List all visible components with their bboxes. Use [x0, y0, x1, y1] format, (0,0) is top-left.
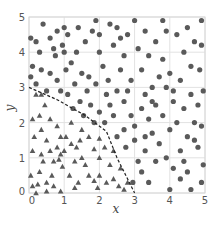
- x-tick-label: 4: [167, 195, 173, 206]
- circle-marker: [167, 71, 172, 76]
- circle-marker: [188, 187, 193, 192]
- circle-marker: [199, 18, 204, 23]
- circle-marker: [102, 120, 107, 125]
- circle-marker: [39, 67, 44, 72]
- y-axis-ticks: 012345: [19, 12, 25, 197]
- circle-marker: [192, 120, 197, 125]
- circle-marker: [136, 46, 141, 51]
- circle-marker: [178, 148, 183, 153]
- circle-marker: [77, 99, 82, 104]
- circle-marker: [188, 92, 193, 97]
- circle-marker: [160, 57, 165, 62]
- circle-marker: [153, 159, 158, 164]
- circle-marker: [160, 18, 165, 23]
- triangle-marker: [107, 162, 113, 167]
- circle-marker: [93, 18, 98, 23]
- triangle-marker: [61, 148, 67, 153]
- triangle-marker: [111, 176, 117, 181]
- circle-marker: [44, 88, 49, 93]
- triangle-marker: [44, 180, 50, 185]
- circle-marker: [164, 85, 169, 90]
- circle-marker: [143, 134, 148, 139]
- triangle-marker: [40, 159, 46, 164]
- triangle-marker: [75, 180, 81, 185]
- triangle-marker: [54, 123, 60, 128]
- circle-marker: [107, 21, 112, 26]
- circle-marker: [143, 148, 148, 153]
- circle-marker: [97, 109, 102, 114]
- triangle-marker: [116, 183, 122, 188]
- circle-marker: [150, 85, 155, 90]
- triangle-marker: [58, 188, 64, 193]
- circle-marker: [62, 25, 67, 30]
- circle-marker: [195, 145, 200, 150]
- circle-marker: [114, 25, 119, 30]
- circle-marker: [185, 25, 190, 30]
- plot-area-frame: [29, 17, 205, 193]
- circle-marker: [160, 113, 165, 118]
- circle-marker: [146, 116, 151, 121]
- circle-marker: [171, 166, 176, 171]
- triangle-marker: [58, 134, 64, 139]
- circle-marker: [197, 67, 202, 72]
- circle-marker: [74, 50, 79, 55]
- y-tick-label: 0: [19, 186, 25, 197]
- circle-marker: [51, 46, 56, 51]
- circle-marker: [55, 78, 60, 83]
- circle-marker: [167, 127, 172, 132]
- triangle-marker: [35, 181, 41, 186]
- triangle-marker: [47, 116, 53, 121]
- circle-marker: [97, 32, 102, 37]
- circle-marker: [88, 102, 93, 107]
- circle-marker: [153, 39, 158, 44]
- triangle-marker: [31, 134, 37, 139]
- triangle-marker: [121, 187, 127, 192]
- triangle-marker: [104, 180, 110, 185]
- grid: [29, 17, 205, 193]
- circle-marker: [185, 134, 190, 139]
- circle-marker: [33, 39, 38, 44]
- circle-marker: [62, 50, 67, 55]
- triangle-marker: [111, 148, 117, 153]
- circle-marker: [174, 32, 179, 37]
- circle-marker: [37, 50, 42, 55]
- triangle-marker: [72, 185, 78, 190]
- circle-marker: [81, 113, 86, 118]
- circle-marker: [185, 169, 190, 174]
- triangle-marker: [97, 136, 103, 141]
- circle-marker: [201, 88, 206, 93]
- circle-marker: [195, 102, 200, 107]
- triangle-marker: [49, 173, 55, 178]
- circle-marker: [118, 36, 123, 41]
- circle-marker: [150, 131, 155, 136]
- circle-marker: [93, 81, 98, 86]
- circle-marker: [150, 99, 155, 104]
- circle-marker: [157, 74, 162, 79]
- circle-marker: [174, 120, 179, 125]
- triangle-marker: [72, 159, 78, 164]
- circle-marker: [48, 71, 53, 76]
- circle-marker: [146, 53, 151, 58]
- circle-marker: [72, 81, 77, 86]
- circle-marker: [130, 180, 135, 185]
- circle-marker: [65, 32, 70, 37]
- circle-marker: [132, 124, 137, 129]
- circle-marker: [128, 78, 133, 83]
- circle-marker: [28, 74, 33, 79]
- circle-marker: [157, 141, 162, 146]
- triangle-marker: [102, 144, 108, 149]
- circle-marker: [178, 176, 183, 181]
- scatter-chart: 012345 012345 x y: [0, 0, 217, 226]
- x-tick-label: 0: [29, 195, 35, 206]
- triangle-marker: [79, 127, 85, 132]
- circle-marker: [181, 106, 186, 111]
- triangle-marker: [44, 137, 50, 142]
- y-tick-label: 5: [19, 12, 25, 23]
- y-axis-label: y: [3, 104, 17, 112]
- circle-marker: [104, 92, 109, 97]
- circle-marker: [167, 187, 172, 192]
- circle-marker: [139, 67, 144, 72]
- triangle-marker: [83, 162, 89, 167]
- circle-marker: [69, 60, 74, 65]
- circle-marker: [201, 162, 206, 167]
